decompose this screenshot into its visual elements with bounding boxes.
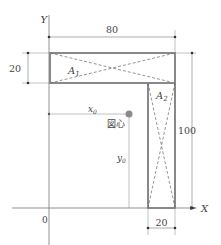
centroid-dot [126, 111, 133, 118]
centroid-diagram: Y X 0 80 20 100 20 A1 A2 x0 y0 図心 [0, 0, 221, 245]
dim-right-height-label: 100 [178, 125, 196, 136]
area-a1-label: A1 [67, 65, 80, 78]
origin-label: 0 [42, 215, 48, 225]
x-axis-label: X [200, 203, 209, 214]
centroid-label: 図心 [107, 119, 125, 129]
rect-a2 [148, 83, 175, 208]
dim-left-height-label: 20 [9, 63, 21, 74]
y-axis-label: Y [40, 14, 48, 25]
area-a2-label: A2 [155, 90, 168, 103]
dim-bottom-width-label: 20 [155, 217, 167, 228]
x0-label: x0 [88, 104, 97, 115]
y0-label: y0 [116, 153, 126, 164]
dim-top-width-label: 80 [106, 24, 118, 35]
